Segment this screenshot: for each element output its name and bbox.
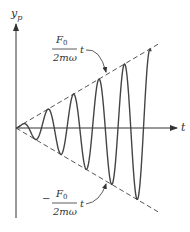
- resonance-diagram: yp t F0 2mω t − F0 2mω t: [0, 0, 190, 232]
- svg-text:t: t: [80, 198, 85, 209]
- y-axis-label: yp: [10, 7, 22, 22]
- svg-text:−: −: [42, 193, 50, 204]
- x-axis-label: t: [181, 121, 186, 134]
- svg-text:F0: F0: [55, 188, 67, 201]
- upper-envelope-label: F0 2mω t: [52, 34, 106, 72]
- svg-text:2mω: 2mω: [52, 206, 77, 217]
- svg-text:2mω: 2mω: [52, 52, 77, 63]
- svg-text:t: t: [80, 44, 85, 55]
- upper-envelope-line: [16, 44, 158, 128]
- leader-arrow: [86, 50, 106, 72]
- response-curve: [16, 49, 151, 199]
- leader-arrow: [86, 184, 106, 204]
- lower-envelope-label: − F0 2mω t: [42, 184, 106, 217]
- svg-text:F0: F0: [55, 34, 67, 47]
